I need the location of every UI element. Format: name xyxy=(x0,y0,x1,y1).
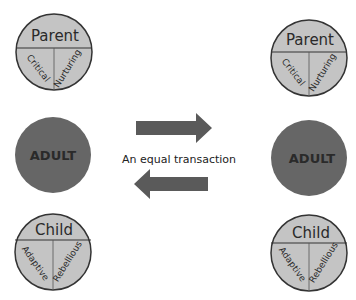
right-parent-circle: Parent Critical Nurturing xyxy=(271,20,347,96)
right-child-label: Child xyxy=(292,224,330,242)
right-adult-circle: ADULT xyxy=(271,120,347,196)
left-child-label: Child xyxy=(35,221,73,239)
right-parent-label: Parent xyxy=(286,31,334,49)
transaction-caption: An equal transaction xyxy=(122,153,236,166)
right-adult-label: ADULT xyxy=(289,151,336,166)
left-parent-circle: Parent Critical Nurturing xyxy=(16,14,92,90)
arrow-right-icon xyxy=(136,113,212,143)
arrow-left-icon xyxy=(134,169,208,199)
right-child-circle: Child Adaptive Rebellious xyxy=(271,215,347,291)
left-child-circle: Child Adaptive Rebellious xyxy=(15,214,91,290)
left-adult-circle: ADULT xyxy=(15,117,91,193)
transaction-diagram: Parent Critical Nurturing ADULT Child Ad… xyxy=(0,0,356,300)
left-adult-label: ADULT xyxy=(30,148,77,163)
left-parent-label: Parent xyxy=(31,27,79,45)
